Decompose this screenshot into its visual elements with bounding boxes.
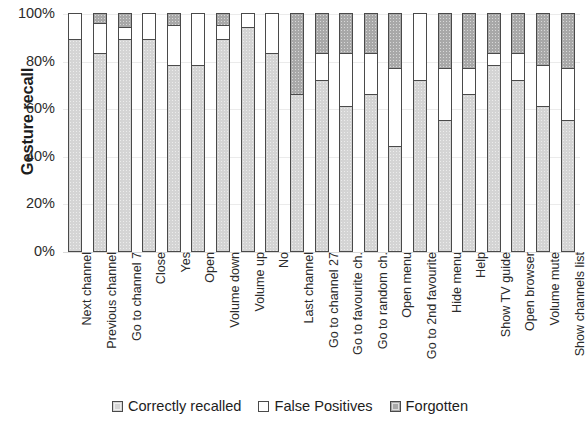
- bar-segment-false-positives: [68, 13, 82, 40]
- y-tick-label: 100%: [0, 5, 55, 21]
- bar-segment-forgotten: [167, 13, 181, 26]
- bar-segment-false-positives: [315, 53, 329, 80]
- legend-swatch-icon: [112, 401, 123, 412]
- x-tick-label: Yes: [179, 252, 193, 382]
- bar-column: [462, 14, 476, 252]
- bar-column: [561, 14, 575, 252]
- bar-column: [364, 14, 378, 252]
- bar-segment-correctly-recalled: [536, 106, 550, 252]
- bar-column: [487, 14, 501, 252]
- bar-segment-correctly-recalled: [388, 146, 402, 252]
- legend-swatch-icon: [390, 401, 401, 412]
- bar-segment-forgotten: [388, 13, 402, 69]
- bar-segment-false-positives: [216, 25, 230, 40]
- bar-column: [68, 14, 82, 252]
- bar-segment-correctly-recalled: [561, 120, 575, 252]
- bar-segment-forgotten: [561, 13, 575, 69]
- legend-item: Correctly recalled: [112, 398, 242, 414]
- x-tick-label: Previous channel: [105, 252, 119, 382]
- legend-label: Correctly recalled: [128, 398, 242, 414]
- bar-segment-forgotten: [315, 13, 329, 54]
- bar-column: [290, 14, 304, 252]
- bar-segment-forgotten: [536, 13, 550, 66]
- bar-segment-forgotten: [511, 13, 525, 54]
- x-tick-label: Last channel: [302, 252, 316, 382]
- bar-series-group: [63, 14, 580, 252]
- bar-segment-forgotten: [462, 13, 476, 69]
- bar-segment-correctly-recalled: [462, 94, 476, 252]
- bar-segment-correctly-recalled: [339, 106, 353, 252]
- bar-segment-false-positives: [511, 53, 525, 80]
- y-tick-label: 40%: [0, 148, 55, 164]
- bar-column: [413, 14, 427, 252]
- bar-segment-false-positives: [462, 68, 476, 95]
- x-tick-label: No: [277, 252, 291, 382]
- x-tick-label: Show channels list: [573, 252, 587, 382]
- bar-segment-forgotten: [118, 13, 132, 28]
- bar-segment-false-positives: [561, 68, 575, 121]
- x-tick-label: Go to random ch.: [376, 252, 390, 382]
- bar-segment-correctly-recalled: [487, 65, 501, 252]
- x-tick-label: Close: [154, 252, 168, 382]
- bar-column: [388, 14, 402, 252]
- bar-segment-forgotten: [487, 13, 501, 54]
- bar-segment-false-positives: [241, 13, 255, 28]
- bar-column: [536, 14, 550, 252]
- bar-segment-correctly-recalled: [315, 80, 329, 252]
- bar-segment-false-positives: [536, 65, 550, 106]
- bar-segment-correctly-recalled: [118, 39, 132, 252]
- bar-column: [142, 14, 156, 252]
- bar-segment-correctly-recalled: [93, 53, 107, 252]
- bar-column: [511, 14, 525, 252]
- bar-column: [315, 14, 329, 252]
- bar-column: [339, 14, 353, 252]
- x-tick-label: Open: [203, 252, 217, 382]
- bar-segment-correctly-recalled: [511, 80, 525, 252]
- x-tick-label: Go to favourite ch.: [351, 252, 365, 382]
- bar-segment-false-positives: [339, 53, 353, 106]
- legend-label: False Positives: [274, 398, 372, 414]
- y-tick-label: 20%: [0, 195, 55, 211]
- bar-segment-false-positives: [487, 53, 501, 66]
- bar-segment-forgotten: [438, 13, 452, 69]
- bar-segment-correctly-recalled: [265, 53, 279, 252]
- x-tick-label: Show TV guide: [499, 252, 513, 382]
- bar-column: [241, 14, 255, 252]
- bar-segment-correctly-recalled: [216, 39, 230, 252]
- legend-label: Forgotten: [406, 398, 468, 414]
- bar-column: [118, 14, 132, 252]
- y-tick-label: 60%: [0, 100, 55, 116]
- plot-area: [63, 14, 580, 252]
- bar-segment-false-positives: [142, 13, 156, 40]
- bar-segment-forgotten: [290, 13, 304, 95]
- x-tick-label: Open browser: [523, 252, 537, 382]
- bar-column: [265, 14, 279, 252]
- bar-column: [438, 14, 452, 252]
- legend-item: Forgotten: [390, 398, 468, 414]
- bar-segment-correctly-recalled: [68, 39, 82, 252]
- bar-column: [216, 14, 230, 252]
- bar-segment-false-positives: [167, 25, 181, 66]
- x-tick-label: Hide menu: [450, 252, 464, 382]
- bar-segment-forgotten: [93, 13, 107, 24]
- bar-column: [167, 14, 181, 252]
- bar-segment-forgotten: [339, 13, 353, 54]
- bar-segment-false-positives: [388, 68, 402, 148]
- bar-segment-false-positives: [93, 23, 107, 55]
- bar-segment-correctly-recalled: [241, 27, 255, 252]
- bar-segment-correctly-recalled: [438, 120, 452, 252]
- bar-segment-false-positives: [191, 13, 205, 66]
- bar-segment-false-positives: [118, 27, 132, 40]
- bar-column: [191, 14, 205, 252]
- x-tick-label: Next channel: [80, 252, 94, 382]
- bar-segment-false-positives: [438, 68, 452, 121]
- bar-segment-correctly-recalled: [364, 94, 378, 252]
- legend-item: False Positives: [258, 398, 372, 414]
- bar-segment-false-positives: [364, 53, 378, 94]
- x-tick-label: Volume up: [253, 252, 267, 382]
- legend-swatch-icon: [258, 401, 269, 412]
- x-tick-label: Help: [474, 252, 488, 382]
- x-tick-label: Volume mute: [548, 252, 562, 382]
- bar-segment-forgotten: [364, 13, 378, 54]
